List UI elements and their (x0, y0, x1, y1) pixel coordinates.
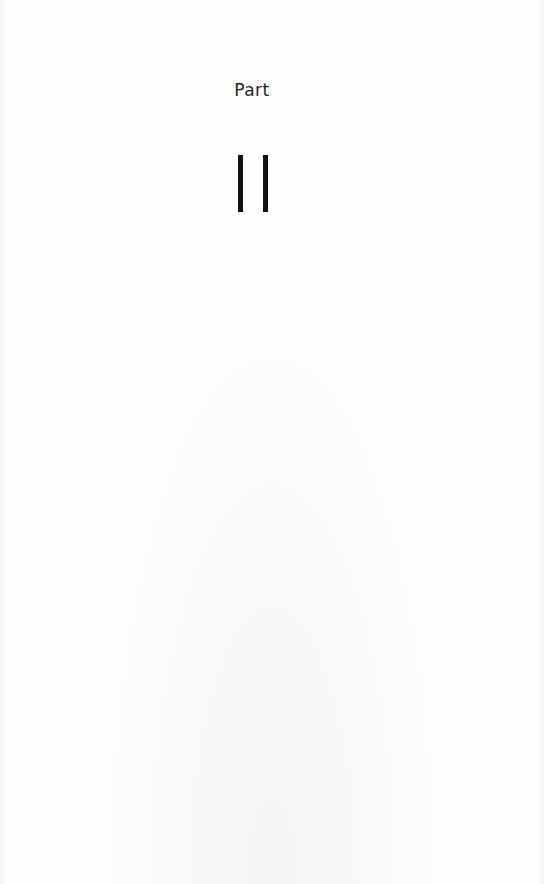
part-number-numeral: II (238, 155, 270, 212)
book-page: Part II (0, 0, 544, 884)
part-label: Part (0, 80, 504, 100)
numeral-stroke-1 (238, 155, 243, 212)
numeral-stroke-2 (263, 155, 268, 212)
